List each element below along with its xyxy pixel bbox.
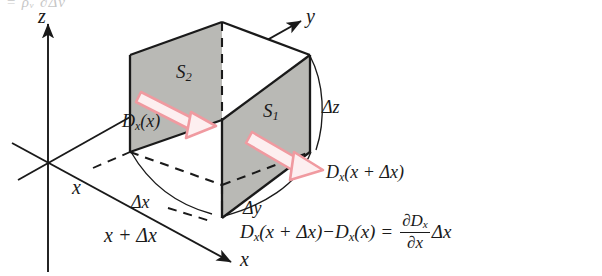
eq-numerator-symbol: ∂D [402,211,423,230]
x-plus-delta-x-label: x + Δx [104,225,157,245]
flux-divergence-figure: = ρᵥ ∂Δν [0,0,602,276]
face-label-s2-index: 2 [186,70,192,84]
cube-hidden-edge-left-bottom [130,152,222,185]
face-label-s2: S2 [176,62,192,83]
eq-fraction-denominator: ∂x [400,233,430,251]
x-origin-label: x [72,177,81,197]
flux-out-symbol: D [326,162,339,182]
eq-term2-symbol: D [335,221,349,242]
eq-equals-sign: = [381,221,392,242]
eq-rhs-tail: Δx [432,221,452,242]
eq-term1-argument: (x + Δx) [259,221,322,242]
delta-x-label: Δx [131,193,150,211]
guide-x-to-cube-back [93,152,130,168]
y-axis-label: y [306,6,315,26]
eq-minus-sign: − [323,221,334,242]
flux-in-label: Dx(x) [122,112,160,132]
delta-z-label: Δz [322,98,340,116]
eq-numerator-subscript: x [423,218,428,230]
eq-partial-fraction: ∂Dx∂x [400,212,430,251]
flux-in-argument: (x) [140,111,160,131]
face-label-s1: S1 [263,101,279,122]
face-label-s1-index: 1 [273,109,279,123]
cube-face-s2 [130,22,222,152]
z-axis-label: z [38,6,46,26]
face-label-s2-letter: S [176,61,186,82]
eq-fraction-numerator: ∂Dx [400,212,430,233]
x-axis-label: x [240,249,249,269]
flux-out-argument: (x + Δx) [344,162,404,182]
flux-out-label: Dx(x + Δx) [326,163,404,183]
flux-in-symbol: D [122,111,135,131]
eq-term2-argument: (x) [354,221,375,242]
guide-x-to-cube-front [168,208,210,221]
arc-delta-z [310,56,322,150]
divergence-equation: Dx(x + Δx)−Dx(x)=∂Dx∂xΔx [240,212,451,251]
eq-term1-symbol: D [240,221,254,242]
face-label-s1-letter: S [263,100,273,121]
projection-guides [93,152,210,221]
